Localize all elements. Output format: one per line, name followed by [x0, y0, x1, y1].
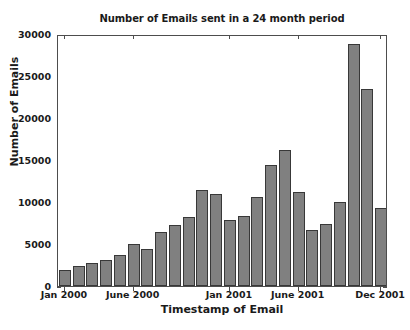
x-tick-mark — [133, 287, 134, 291]
bar — [361, 89, 373, 286]
bar — [306, 230, 318, 286]
y-axis-label: Number of Emails — [8, 12, 21, 212]
bar — [169, 225, 181, 286]
bar — [375, 208, 387, 286]
y-tick-label: 5000 — [5, 239, 51, 250]
x-tick-mark-top — [133, 35, 134, 39]
y-tick-label: 10000 — [5, 197, 51, 208]
bar — [251, 197, 263, 286]
y-tick-mark-right — [383, 287, 387, 288]
x-tick-mark — [229, 287, 230, 291]
x-tick-mark — [298, 287, 299, 291]
bar — [155, 232, 167, 286]
bar — [320, 224, 332, 286]
bar — [73, 266, 85, 286]
bar — [183, 217, 195, 286]
x-tick-mark-top — [298, 35, 299, 39]
bar — [238, 216, 250, 286]
bar — [100, 260, 112, 286]
bar — [293, 192, 305, 286]
bar — [348, 44, 360, 286]
y-tick-label: 25000 — [5, 71, 51, 82]
x-tick-mark-top — [229, 35, 230, 39]
plot-area — [57, 35, 387, 287]
x-tick-mark — [380, 287, 381, 291]
x-tick-mark-top — [64, 35, 65, 39]
x-tick-mark-top — [380, 35, 381, 39]
chart-title: Number of Emails sent in a 24 month peri… — [57, 13, 387, 24]
bar — [114, 255, 126, 286]
x-axis-label: Timestamp of Email — [57, 303, 387, 316]
bar — [210, 194, 222, 286]
chart-figure: Number of Emails sent in a 24 month peri… — [0, 0, 410, 330]
x-tick-mark — [64, 287, 65, 291]
y-tick-label: 15000 — [5, 155, 51, 166]
bar — [86, 263, 98, 286]
bar — [128, 244, 140, 286]
bar — [334, 202, 346, 286]
bar — [279, 150, 291, 286]
y-tick-label: 20000 — [5, 113, 51, 124]
y-tick-mark — [57, 287, 61, 288]
bar — [265, 165, 277, 286]
bar — [59, 270, 71, 286]
bar — [141, 249, 153, 286]
y-tick-label: 30000 — [5, 29, 51, 40]
bar — [224, 220, 236, 286]
bars-layer — [58, 36, 386, 286]
bar — [196, 190, 208, 286]
